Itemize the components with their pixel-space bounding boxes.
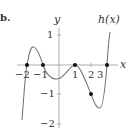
point-1-0 [73,63,77,67]
x-tick-label: −1 [33,70,48,80]
point-3-0 [105,63,109,67]
x-axis-label: x [120,59,126,70]
x-tick-label: 2 [88,70,94,80]
y-tick-label: 1 [47,30,53,40]
x-tick-label: −2 [15,70,30,80]
y-tick-label: −2 [40,119,55,129]
y-tick-label: −1 [40,89,55,99]
function-label: h(x) [98,14,120,25]
point-neg1-0 [41,63,45,67]
y-axis-label: y [54,14,60,25]
function-graph: b. y h(x) x −2 −1 1 2 3 1 −1 −2 [0,0,137,137]
x-tick-label: 1 [72,70,78,80]
x-tick-label: 3 [97,70,103,80]
point-neg2-0 [25,63,29,67]
part-label: b. [0,13,10,23]
point-2-neg1 [89,92,93,96]
